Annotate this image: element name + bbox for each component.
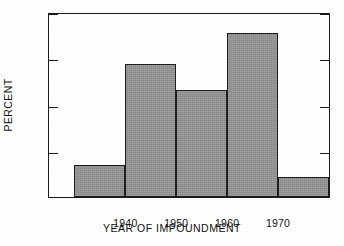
y-tick-20	[49, 107, 58, 108]
x-tick-1960	[227, 188, 228, 197]
y-tick-40	[49, 14, 58, 15]
y-tick-30-right	[320, 60, 329, 61]
bar-1970-1980	[278, 177, 329, 197]
bar-1930-1940	[74, 165, 125, 197]
y-tick-30	[49, 60, 58, 61]
bar-1960-1970	[227, 33, 278, 197]
plot-area: 40 30 20 10 0 1940 1950 1960 1970	[48, 13, 330, 198]
bar-1940-1950	[125, 64, 176, 197]
y-tick-20-right	[320, 107, 329, 108]
x-tick-1950	[176, 188, 177, 197]
y-tick-10	[49, 153, 58, 154]
x-tick-1940	[125, 188, 126, 197]
y-tick-10-right	[320, 153, 329, 154]
bar-1950-1960	[176, 90, 227, 197]
y-axis-title: PERCENT	[2, 79, 14, 132]
x-axis-title: YEAR OF IMPOUNDMENT	[0, 222, 344, 234]
bars-layer	[49, 14, 329, 197]
x-tick-1970	[278, 188, 279, 197]
y-tick-40-right	[320, 14, 329, 15]
histogram-figure: 40 30 20 10 0 1940 1950 1960 1970 PERCEN…	[0, 0, 344, 246]
